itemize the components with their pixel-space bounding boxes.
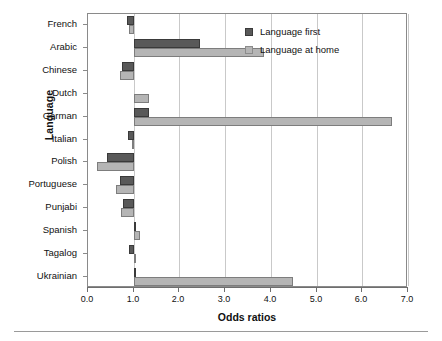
legend-label-language-first: Language first [260,26,320,37]
legend-label-language-at-home: Language at home [260,44,339,55]
x-tick [407,287,408,292]
x-tick-label: 1.0 [116,294,150,304]
bar-dutch-language-at-home [134,94,149,103]
y-tick [83,253,87,254]
y-tick-label: Arabic [50,42,77,52]
x-tick-label: 6.0 [344,294,378,304]
y-tick [83,24,87,25]
x-tick [178,287,179,292]
y-tick [83,139,87,140]
x-tick-label: 5.0 [299,294,333,304]
bar-polish-language-first [107,153,134,162]
x-tick-label: 2.0 [161,294,195,304]
bar-chinese-language-first [122,62,134,71]
bar-french-language-first [127,16,133,25]
bar-spanish-language-first [134,222,137,231]
y-tick [83,184,87,185]
x-tick-label: 3.0 [207,294,241,304]
y-tick [83,70,87,71]
odds-ratio-chart: Language FrenchArabicChineseDutchGermanI… [0,0,442,341]
bar-portuguese-language-at-home [116,185,133,194]
y-tick-label: Chinese [42,65,77,75]
legend-swatch-language-at-home [245,46,253,54]
y-tick-label: Punjabi [45,202,77,212]
bar-german-language-first [134,108,149,117]
legend: Language first Language at home [245,26,339,62]
bar-arabic-language-first [134,39,200,48]
x-tick [316,287,317,292]
y-axis-tick-labels: FrenchArabicChineseDutchGermanItalianPol… [0,13,83,287]
bar-italian-language-at-home [132,140,134,149]
gridline [408,14,409,286]
y-tick-label: German [43,111,77,121]
legend-swatch-language-first [245,28,253,36]
y-tick-label: Spanish [43,225,77,235]
y-tick [83,230,87,231]
bar-french-language-at-home [129,25,134,34]
bar-tagalog-language-at-home [134,254,136,263]
legend-item: Language at home [245,44,339,55]
bar-spanish-language-at-home [134,231,140,240]
bar-italian-language-first [128,131,133,140]
x-tick [224,287,225,292]
bar-ukrainian-language-at-home [134,277,293,286]
bottom-divider [14,331,428,332]
x-tick-label: 4.0 [253,294,287,304]
legend-item: Language first [245,26,339,37]
y-tick [83,116,87,117]
bar-german-language-at-home [134,117,392,126]
y-tick-label: Portuguese [28,179,77,189]
y-tick-label: Italian [52,134,77,144]
y-tick [83,93,87,94]
bar-ukrainian-language-first [134,268,136,277]
x-tick [87,287,88,292]
x-axis-line [87,287,407,288]
y-tick-label: French [47,19,77,29]
y-tick [83,161,87,162]
x-tick-label: 0.0 [70,294,104,304]
bar-tagalog-language-first [129,245,134,254]
bar-punjabi-language-first [123,199,134,208]
bar-punjabi-language-at-home [121,208,134,217]
x-tick [361,287,362,292]
x-tick [133,287,134,292]
bar-polish-language-at-home [97,162,134,171]
y-tick [83,207,87,208]
bar-portuguese-language-first [120,176,134,185]
y-tick [83,276,87,277]
y-tick-label: Ukrainian [37,271,77,281]
y-tick-label: Polish [51,156,77,166]
y-tick-label: Dutch [52,88,77,98]
x-axis-title: Odds ratios [87,311,407,323]
bar-chinese-language-at-home [120,71,134,80]
x-tick-label: 7.0 [390,294,424,304]
y-tick-label: Tagalog [44,248,77,258]
y-tick [83,47,87,48]
x-tick [270,287,271,292]
